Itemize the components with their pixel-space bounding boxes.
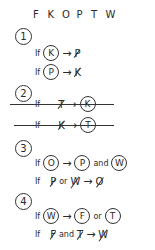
rule-number: 1 [15, 28, 32, 45]
letter: O [62, 9, 77, 20]
arrow-icon: → [62, 157, 71, 170]
rule-number: 2 [15, 85, 32, 102]
strikethrough-line [14, 125, 114, 126]
conjunction: or [59, 177, 67, 186]
circled-term: W [43, 208, 59, 224]
arrow-icon: → [62, 210, 71, 223]
arrow-icon: → [62, 66, 71, 79]
letter: T [91, 9, 106, 20]
negated-term: P [74, 48, 80, 59]
rule-line: If O → P and W [35, 155, 127, 171]
letter: F [33, 9, 48, 20]
circled-term: T [105, 208, 121, 224]
strikethrough-line [10, 104, 114, 105]
if-label: If [35, 68, 40, 77]
conjunction: or [93, 212, 101, 221]
arrow-icon: → [83, 175, 92, 188]
negated-term: P [50, 176, 56, 187]
circled-term: W [111, 155, 127, 171]
rule-number: 3 [15, 140, 32, 157]
rule-line: If P or W → O [35, 175, 103, 188]
if-label: If [35, 49, 40, 58]
conjunction: and [59, 230, 74, 239]
circled-term: P [74, 155, 90, 171]
circled-term: F [74, 208, 90, 224]
circled-term: K [43, 45, 59, 61]
negated-term: T [77, 229, 83, 240]
rule-line: If K → P [35, 45, 80, 61]
rule-line: If F and T → W [35, 228, 108, 241]
circled-term: P [43, 64, 59, 80]
negated-term: O [96, 176, 104, 187]
if-label: If [35, 177, 40, 186]
negated-term: W [98, 229, 108, 240]
negated-term: F [50, 229, 56, 240]
conjunction: and [93, 159, 108, 168]
negated-term: K [74, 67, 81, 78]
rule-line: If W → F or T [35, 208, 121, 224]
arrow-icon: → [62, 47, 71, 60]
negated-term: W [70, 176, 80, 187]
letter: P [77, 9, 92, 20]
if-label: If [35, 159, 40, 168]
arrow-icon: → [86, 228, 95, 241]
if-label: If [35, 212, 40, 221]
circled-term: O [43, 155, 59, 171]
letter: W [106, 9, 121, 20]
variable-header: FKOPTW [33, 9, 120, 20]
if-label: If [35, 230, 40, 239]
rule-line: If P → K [35, 64, 81, 80]
rule-number: 4 [15, 193, 32, 210]
letter: K [48, 9, 63, 20]
